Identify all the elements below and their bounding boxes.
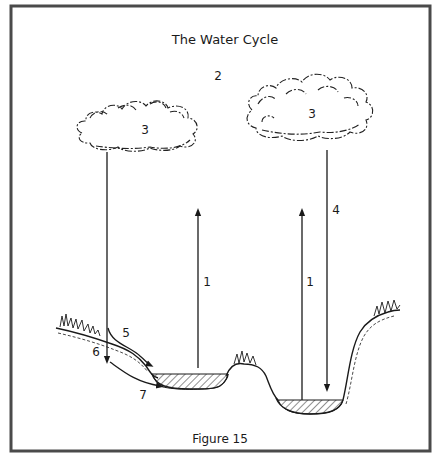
label-surface-runoff: 5	[122, 326, 130, 340]
pond-left	[152, 374, 228, 389]
label-atmosphere: 2	[214, 69, 222, 83]
label-cloud-right: 3	[308, 107, 316, 121]
vegetation-right-icon	[374, 300, 400, 316]
vegetation-left-icon	[60, 314, 100, 336]
cloud-left-icon	[77, 101, 197, 151]
label-groundwater-flow: 7	[139, 388, 147, 402]
label-precipitation: 4	[332, 203, 340, 217]
water-cycle-diagram: The Water Cycle 2 3 3 1 1 4	[0, 0, 442, 462]
lake-right	[278, 400, 343, 414]
label-evaporation-right: 1	[306, 275, 314, 289]
label-cloud-left: 3	[141, 123, 149, 137]
label-evaporation-left: 1	[203, 275, 211, 289]
figure-caption: Figure 15	[192, 432, 248, 446]
diagram-title: The Water Cycle	[171, 32, 278, 47]
label-infiltration: 6	[92, 345, 100, 359]
vegetation-hill-icon	[234, 351, 256, 365]
